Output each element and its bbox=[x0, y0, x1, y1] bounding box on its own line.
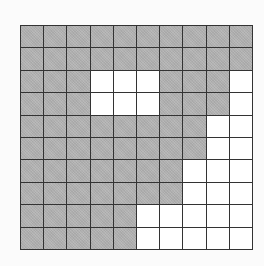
grid-cell-shaded bbox=[21, 71, 43, 92]
grid-cell-shaded bbox=[160, 116, 182, 137]
grid-cell-empty bbox=[207, 183, 229, 204]
grid-cell-shaded bbox=[183, 93, 205, 114]
grid-cell-shaded bbox=[67, 183, 89, 204]
grid-cell-shaded bbox=[67, 26, 89, 47]
grid-cell-empty bbox=[160, 228, 182, 249]
grid-cell-shaded bbox=[21, 183, 43, 204]
grid-cell-shaded bbox=[183, 116, 205, 137]
grid-cell-empty bbox=[230, 71, 252, 92]
grid-cell-shaded bbox=[114, 26, 136, 47]
grid-cell-shaded bbox=[91, 26, 113, 47]
grid-cell-shaded bbox=[91, 138, 113, 159]
grid-cell-empty bbox=[183, 160, 205, 181]
grid-cell-empty bbox=[230, 93, 252, 114]
grid-cell-shaded bbox=[114, 116, 136, 137]
grid-cell-shaded bbox=[160, 93, 182, 114]
grid-cell-shaded bbox=[67, 205, 89, 226]
grid-cell-empty bbox=[91, 93, 113, 114]
grid-cell-shaded bbox=[183, 138, 205, 159]
grid-cell-empty bbox=[114, 71, 136, 92]
grid-cell-shaded bbox=[44, 71, 66, 92]
grid-cell-shaded bbox=[137, 116, 159, 137]
grid-cell-shaded bbox=[21, 205, 43, 226]
grid-cell-shaded bbox=[114, 183, 136, 204]
grid-cell-empty bbox=[230, 228, 252, 249]
grid-cell-shaded bbox=[160, 71, 182, 92]
grid-cell-shaded bbox=[137, 183, 159, 204]
grid-cell-shaded bbox=[21, 93, 43, 114]
grid-cell-shaded bbox=[21, 116, 43, 137]
grid-cell-shaded bbox=[67, 228, 89, 249]
grid-cell-shaded bbox=[207, 48, 229, 69]
grid-cell-shaded bbox=[114, 138, 136, 159]
grid-cell-empty bbox=[183, 205, 205, 226]
grid-cell-shaded bbox=[207, 71, 229, 92]
grid-cell-empty bbox=[230, 138, 252, 159]
grid-cell-empty bbox=[137, 228, 159, 249]
grid-cell-shaded bbox=[160, 48, 182, 69]
grid-cell-shaded bbox=[137, 26, 159, 47]
grid-cell-shaded bbox=[44, 116, 66, 137]
grid-cell-shaded bbox=[160, 160, 182, 181]
grid-cell-empty bbox=[207, 160, 229, 181]
grid-cell-shaded bbox=[230, 48, 252, 69]
grid-cell-shaded bbox=[44, 228, 66, 249]
grid-cell-shaded bbox=[160, 26, 182, 47]
grid-cell-shaded bbox=[91, 205, 113, 226]
grid-cell-shaded bbox=[44, 183, 66, 204]
grid-cell-empty bbox=[137, 205, 159, 226]
grid-cell-empty bbox=[207, 205, 229, 226]
shaded-grid-diagram bbox=[20, 25, 253, 250]
grid-cell-shaded bbox=[207, 93, 229, 114]
grid-cell-shaded bbox=[137, 48, 159, 69]
grid-cell-shaded bbox=[91, 228, 113, 249]
grid-cell-shaded bbox=[230, 26, 252, 47]
grid-cell-shaded bbox=[137, 160, 159, 181]
grid-cell-empty bbox=[91, 71, 113, 92]
grid-cell-shaded bbox=[44, 160, 66, 181]
grid-cell-shaded bbox=[137, 138, 159, 159]
grid-cell-shaded bbox=[91, 116, 113, 137]
grid-cell-shaded bbox=[183, 71, 205, 92]
grid-cell-empty bbox=[137, 71, 159, 92]
grid-cell-empty bbox=[183, 183, 205, 204]
grid-cell-shaded bbox=[44, 205, 66, 226]
grid-cell-shaded bbox=[67, 93, 89, 114]
grid-cell-shaded bbox=[91, 48, 113, 69]
grid-cell-empty bbox=[230, 160, 252, 181]
grid-cell-shaded bbox=[21, 138, 43, 159]
grid-cell-empty bbox=[230, 183, 252, 204]
grid-cell-shaded bbox=[44, 48, 66, 69]
grid-cell-shaded bbox=[67, 138, 89, 159]
grid-cell-empty bbox=[160, 205, 182, 226]
grid-cell-empty bbox=[207, 116, 229, 137]
grid-cell-shaded bbox=[160, 183, 182, 204]
grid-cell-empty bbox=[230, 116, 252, 137]
grid-cell-shaded bbox=[160, 138, 182, 159]
grid-cell-empty bbox=[207, 228, 229, 249]
grid-cell-shaded bbox=[91, 160, 113, 181]
grid-cell-shaded bbox=[91, 183, 113, 204]
grid-cell-shaded bbox=[21, 228, 43, 249]
grid-cell-shaded bbox=[114, 228, 136, 249]
grid-cell-shaded bbox=[183, 26, 205, 47]
grid-cell-shaded bbox=[183, 48, 205, 69]
grid-cell-shaded bbox=[207, 26, 229, 47]
grid-cell-shaded bbox=[44, 26, 66, 47]
grid-cell-shaded bbox=[114, 160, 136, 181]
grid-cell-shaded bbox=[44, 138, 66, 159]
grid-cell-empty bbox=[114, 93, 136, 114]
grid-cell-shaded bbox=[21, 26, 43, 47]
grid-cell-shaded bbox=[21, 48, 43, 69]
grid-cell-shaded bbox=[21, 160, 43, 181]
grid-cell-empty bbox=[207, 138, 229, 159]
grid-cell-shaded bbox=[67, 160, 89, 181]
grid-cell-shaded bbox=[114, 48, 136, 69]
grid-cell-empty bbox=[183, 228, 205, 249]
grid-cell-empty bbox=[230, 205, 252, 226]
grid-cell-shaded bbox=[44, 93, 66, 114]
grid-cell-shaded bbox=[67, 48, 89, 69]
grid-cell-shaded bbox=[67, 71, 89, 92]
grid-cell-shaded bbox=[114, 205, 136, 226]
grid-cell-empty bbox=[137, 93, 159, 114]
